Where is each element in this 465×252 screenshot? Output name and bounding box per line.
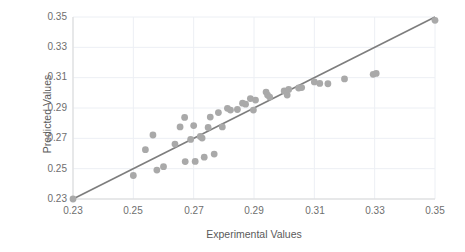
data-point — [150, 132, 157, 139]
data-point — [341, 75, 348, 82]
data-point — [142, 146, 149, 153]
data-point — [70, 196, 77, 203]
data-point — [211, 151, 218, 158]
data-point — [432, 17, 439, 24]
data-point — [187, 136, 194, 143]
data-point — [266, 94, 273, 101]
data-point — [219, 124, 226, 131]
data-point — [242, 101, 249, 108]
scatter-chart: Predicted Values Experimental Values 0.3… — [0, 0, 465, 252]
data-point — [250, 107, 257, 114]
data-point — [285, 86, 292, 93]
data-point — [190, 122, 197, 129]
data-point — [207, 114, 214, 121]
data-point — [298, 84, 305, 91]
data-point — [325, 80, 332, 87]
data-point — [234, 106, 241, 113]
data-point — [172, 141, 179, 148]
data-point — [153, 167, 160, 174]
data-point — [373, 70, 380, 77]
data-point — [215, 109, 222, 116]
data-point — [192, 158, 199, 165]
data-point — [252, 97, 259, 104]
plot-area — [0, 0, 465, 252]
data-point — [205, 124, 212, 131]
data-point — [130, 172, 137, 179]
data-point — [160, 163, 167, 170]
data-point — [182, 158, 189, 165]
data-point — [201, 154, 208, 161]
data-point — [316, 80, 323, 87]
data-point — [181, 114, 188, 121]
data-point — [227, 107, 234, 114]
data-point — [199, 135, 206, 142]
data-point — [177, 124, 184, 131]
